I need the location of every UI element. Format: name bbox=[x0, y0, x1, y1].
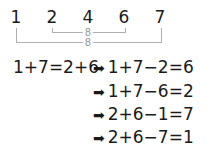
right-arrow-icon: ➡ bbox=[93, 130, 105, 147]
number-7: 7 bbox=[155, 9, 166, 26]
derived-text-1: 1+7−2=6 bbox=[108, 57, 194, 77]
derived-equation-2: ➡1+7−6=2 bbox=[93, 83, 194, 101]
outer-bracket-label: 8 bbox=[83, 38, 93, 48]
derived-text-3: 2+6−1=7 bbox=[108, 104, 194, 124]
derived-equation-1: ➡1+7−2=6 bbox=[93, 59, 194, 77]
derived-text-2: 1+7−6=2 bbox=[108, 81, 194, 101]
number-6: 6 bbox=[119, 9, 130, 26]
premise-equation: 1+7=2+6 bbox=[13, 59, 99, 76]
right-arrow-icon: ➡ bbox=[93, 60, 105, 77]
derived-text-4: 2+6−7=1 bbox=[108, 127, 194, 147]
premise-text: 1+7=2+6 bbox=[13, 57, 99, 77]
right-arrow-icon: ➡ bbox=[93, 107, 105, 124]
right-arrow-icon: ➡ bbox=[93, 84, 105, 101]
number-1: 1 bbox=[11, 9, 22, 26]
derived-equation-4: ➡2+6−7=1 bbox=[93, 129, 194, 147]
number-2: 2 bbox=[47, 9, 58, 26]
derived-equation-3: ➡2+6−1=7 bbox=[93, 106, 194, 124]
number-4: 4 bbox=[83, 9, 94, 26]
